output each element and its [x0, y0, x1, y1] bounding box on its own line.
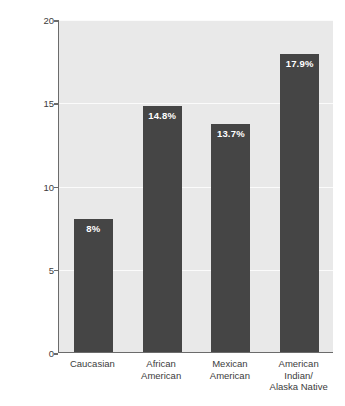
bar-value-label-1: 8%: [74, 223, 113, 234]
bar-rect-4: 17.9%: [280, 54, 319, 352]
x-tick-label-3: MexicanAmerican: [196, 358, 265, 381]
y-tick-label-20: 20: [43, 15, 54, 26]
bar-4: 17.9%: [280, 54, 319, 352]
bar-rect-2: 14.8%: [143, 106, 182, 352]
bar-value-label-2: 14.8%: [143, 110, 182, 121]
x-tick-label-1: Caucasian: [58, 358, 127, 370]
y-tick-label-15: 15: [43, 98, 54, 109]
x-tick-label-4: AmericanIndian/Alaska Native: [264, 358, 333, 393]
x-tick-label-2: AfricanAmerican: [127, 358, 196, 381]
y-tick-mark-10: [54, 187, 58, 189]
x-axis-labels: CaucasianAfricanAmericanMexicanAmericanA…: [58, 358, 333, 406]
bar-3: 13.7%: [211, 124, 250, 352]
bar-2: 14.8%: [143, 106, 182, 352]
y-tick-label-10: 10: [43, 181, 54, 192]
bar-rect-1: 8%: [74, 219, 113, 352]
bar-value-label-3: 13.7%: [211, 128, 250, 139]
y-tick-mark-0: [54, 353, 58, 355]
bar-rect-3: 13.7%: [211, 124, 250, 352]
bar-chart: Percent (%) of adults with type 2 diabet…: [0, 0, 345, 406]
bar-1: 8%: [74, 219, 113, 352]
y-tick-mark-5: [54, 270, 58, 272]
plot-area: 8%14.8%13.7%17.9%: [58, 20, 333, 353]
y-tick-mark-20: [54, 20, 58, 22]
bar-series: 8%14.8%13.7%17.9%: [59, 20, 333, 352]
y-tick-mark-15: [54, 103, 58, 105]
bar-value-label-4: 17.9%: [280, 58, 319, 69]
